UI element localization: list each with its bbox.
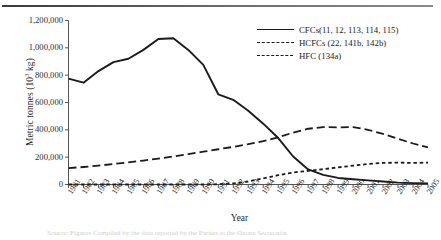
- chart-legend: CFCs(11, 12, 113, 114, 115) HCFCs (22, 1…: [257, 23, 398, 62]
- x-axis-title: Year: [0, 213, 435, 223]
- legend-label-hcfcs: HCFCs (22, 141b, 142b): [299, 38, 386, 48]
- y-axis-tickmarks: [65, 21, 69, 185]
- legend-item-hcfcs: HCFCs (22, 141b, 142b): [257, 36, 398, 49]
- figure-source-caption: Source: Figures Compiled by the data rep…: [47, 229, 427, 237]
- legend-key-hcfcs-icon: [257, 38, 294, 48]
- legend-item-cfcs: CFCs(11, 12, 113, 114, 115): [257, 23, 398, 36]
- legend-key-hfc-icon: [257, 51, 294, 61]
- legend-label-hfc: HFC (134a): [299, 51, 341, 61]
- x-axis-title-text: Year: [231, 213, 248, 223]
- series-line: [69, 127, 429, 168]
- legend-key-cfcs-icon: [257, 25, 294, 35]
- legend-label-cfcs: CFCs(11, 12, 113, 114, 115): [299, 25, 398, 35]
- legend-item-hfc: HFC (134a): [257, 49, 398, 62]
